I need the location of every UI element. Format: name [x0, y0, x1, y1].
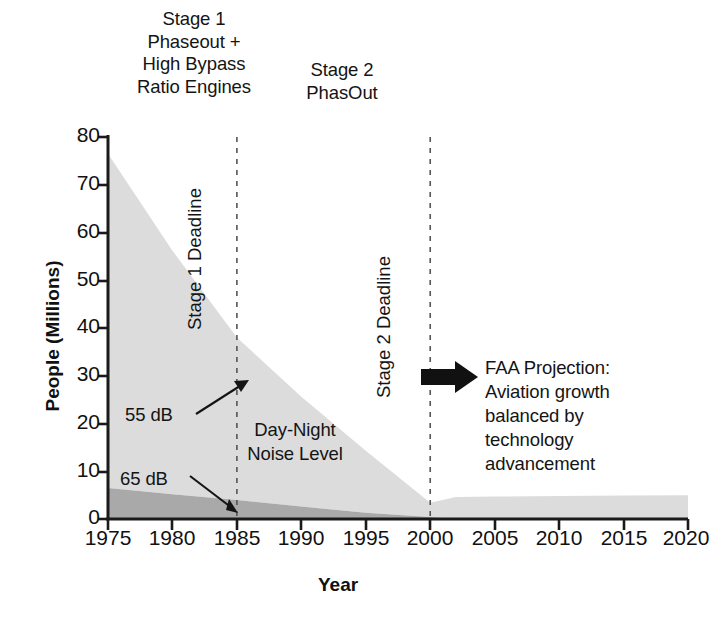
stage2-heading: Stage 2 PhasOut: [262, 59, 422, 104]
stage1-heading: Stage 1 Phaseout + High Bypass Ratio Eng…: [104, 8, 284, 98]
x-tick-label: 2020: [651, 526, 714, 550]
series-label-55db: 55 dB: [125, 404, 173, 427]
x-tick-label: 1985: [202, 526, 272, 550]
x-tick-label: 2000: [395, 526, 465, 550]
faa-projection-callout: FAA Projection: Aviation growth balanced…: [485, 356, 690, 476]
y-tick-label: 80: [56, 123, 100, 147]
x-tick-label: 2005: [460, 526, 530, 550]
x-tick-label: 1995: [331, 526, 401, 550]
y-tick-label: 60: [56, 219, 100, 243]
x-tick-label: 1975: [73, 526, 143, 550]
x-tick-label: 2010: [524, 526, 594, 550]
x-tick-label: 1980: [137, 526, 207, 550]
stage2-deadline-label: Stage 2 Deadline: [373, 256, 395, 398]
series-label-65db: 65 dB: [120, 468, 168, 491]
y-tick-label: 40: [56, 314, 100, 338]
x-axis-title: Year: [318, 574, 358, 596]
day-night-noise-level-label: Day-Night Noise Level: [215, 418, 375, 466]
y-tick-label: 30: [56, 362, 100, 386]
y-tick-label: 50: [56, 267, 100, 291]
right-arrow-icon: [421, 361, 478, 393]
y-tick-label: 10: [56, 458, 100, 482]
y-tick-label: 70: [56, 171, 100, 195]
x-tick-label: 1990: [266, 526, 336, 550]
stage1-deadline-label: Stage 1 Deadline: [184, 188, 206, 330]
x-tick-label: 2015: [589, 526, 659, 550]
y-tick-label: 20: [56, 410, 100, 434]
